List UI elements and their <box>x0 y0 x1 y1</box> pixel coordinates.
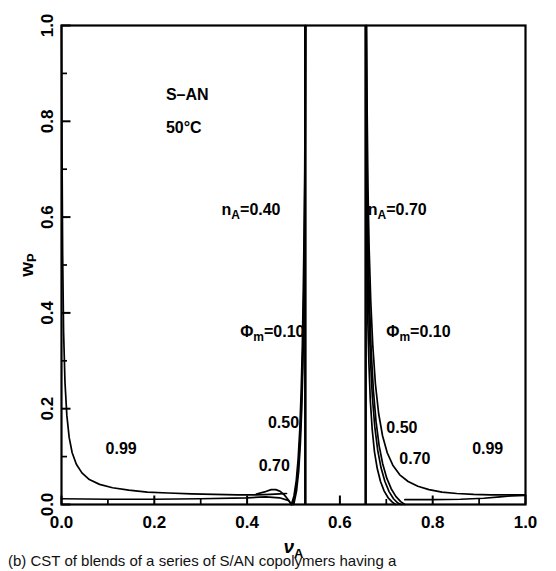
x-tick-label: 0.8 <box>421 513 445 532</box>
y-tick-label: 0.8 <box>38 109 57 133</box>
y-tick-label: 0.0 <box>38 493 57 517</box>
y-tick-label: 0.2 <box>38 397 57 421</box>
phase-diagram-plot: 0.00.20.40.60.81.0 0.00.20.40.60.81.0 S–… <box>0 0 556 571</box>
curve-value-label: 0.70 <box>399 450 430 467</box>
y-tick-label: 1.0 <box>38 14 57 38</box>
y-tick-label: 0.6 <box>38 205 57 229</box>
plot-annotation: 50°C <box>166 119 202 136</box>
x-tick-label: 1.0 <box>514 513 538 532</box>
curve-value-label: 0.99 <box>472 440 503 457</box>
plot-annotation: S–AN <box>166 86 209 103</box>
y-tick-label: 0.4 <box>38 301 57 325</box>
figure-background <box>0 0 556 571</box>
figure-root: 0.00.20.40.60.81.0 0.00.20.40.60.81.0 S–… <box>0 0 556 571</box>
curve-value-label: 0.99 <box>106 440 137 457</box>
x-tick-label: 0.2 <box>142 513 166 532</box>
curve-value-label: 0.70 <box>259 457 290 474</box>
caption-text: (b) CST of blends of a series of S/AN co… <box>8 552 396 569</box>
curve-value-label: 0.50 <box>268 414 299 431</box>
curve-value-label: 0.50 <box>386 419 417 436</box>
x-tick-label: 0.6 <box>328 513 352 532</box>
x-tick-label: 0.4 <box>235 513 259 532</box>
figure-caption: (b) CST of blends of a series of S/AN co… <box>8 552 556 571</box>
